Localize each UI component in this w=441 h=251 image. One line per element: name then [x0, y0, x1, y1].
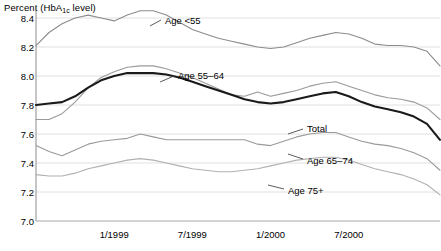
x-axis-tick-label: 1/2000: [256, 229, 285, 240]
x-axis-tick-labels: 1/19997/19991/20007/2000: [0, 0, 441, 251]
x-axis-tick-label: 7/2000: [334, 229, 363, 240]
chart-container: Percent (HbA1c level) 7.07.27.47.67.88.0…: [0, 0, 441, 251]
x-axis-tick-label: 1/1999: [100, 229, 129, 240]
x-axis-tick-label: 7/1999: [178, 229, 207, 240]
